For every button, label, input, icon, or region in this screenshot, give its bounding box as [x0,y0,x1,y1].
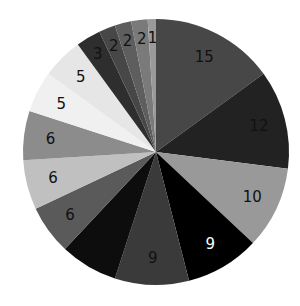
slice-label: 10 [243,188,262,206]
pie-slices [23,19,289,285]
slice-label: 2 [137,30,147,48]
slice-label: 15 [195,48,214,66]
slice-label: 3 [93,45,103,63]
slice-label: 2 [109,37,119,55]
pie-chart: 151210996665532221 [0,0,300,306]
slice-label: 5 [56,95,66,113]
slice-label: 6 [65,206,75,224]
slice-label: 5 [76,68,86,86]
slice-label: 12 [250,117,269,135]
slice-label: 6 [48,169,58,187]
slice-label: 9 [205,235,215,253]
slice-label: 2 [123,32,133,50]
slice-label: 1 [148,29,158,47]
slice-label: 9 [148,249,158,267]
slice-label: 6 [46,130,56,148]
